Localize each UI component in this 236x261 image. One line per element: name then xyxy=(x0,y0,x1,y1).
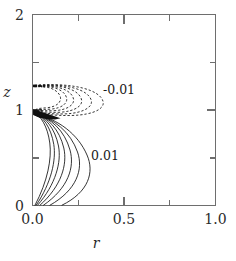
contour-label-positive: 0.01 xyxy=(91,148,119,163)
anchor-blob-upper xyxy=(33,85,37,88)
x-tick-label-0p0: 0.0 xyxy=(21,211,43,227)
contour-dashed-3 xyxy=(35,85,82,112)
contour-group-negative xyxy=(35,85,104,116)
contour-dashed-6 xyxy=(35,87,61,110)
contour-figure: 2 1 0 0.0 0.5 1.0 r z -0.01 0.01 xyxy=(0,0,236,261)
x-ticks-bottom xyxy=(33,197,216,206)
y-tick-label-2: 2 xyxy=(15,7,24,23)
anchor-blob-a xyxy=(38,85,40,87)
y-axis-title: z xyxy=(2,84,11,100)
anchor-blob-c xyxy=(44,86,45,88)
contour-label-negative: -0.01 xyxy=(103,82,135,97)
contour-dashed-5 xyxy=(35,86,67,110)
contour-solid-6 xyxy=(34,112,55,205)
contour-dashed-1 xyxy=(35,85,104,116)
y-tick-label-1: 1 xyxy=(15,102,24,118)
contour-solid-1 xyxy=(35,114,90,205)
contour-group-positive xyxy=(34,112,90,206)
x-tick-label-0p5: 0.5 xyxy=(113,211,135,227)
x-axis-title: r xyxy=(93,235,101,251)
y-tick-labels: 2 1 0 xyxy=(15,7,24,214)
y-ticks-right xyxy=(207,15,216,206)
anchor-blob-b xyxy=(41,85,42,87)
x-tick-label-1p0: 1.0 xyxy=(204,211,226,227)
x-ticks-top xyxy=(33,15,216,24)
x-tick-labels: 0.0 0.5 1.0 xyxy=(21,211,226,227)
plot-canvas: 2 1 0 0.0 0.5 1.0 r z -0.01 0.01 xyxy=(0,0,236,261)
contour-dashed-4 xyxy=(35,86,74,111)
contour-solid-5 xyxy=(34,112,59,205)
